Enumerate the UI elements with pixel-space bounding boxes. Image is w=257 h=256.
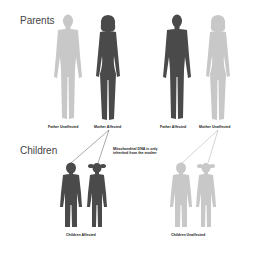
father-unaffected-figure	[54, 15, 82, 120]
mother-unaffected-figure	[206, 15, 230, 120]
label-children-affected: Children Affected	[66, 233, 96, 237]
label-father-affected: Father Affected	[160, 125, 186, 129]
girl-affected-figure	[87, 163, 107, 227]
father-affected-figure	[163, 15, 191, 120]
label-mother-affected: Mother Affected	[94, 125, 121, 129]
mother-affected-figure	[96, 15, 120, 120]
boy-affected-figure	[60, 163, 82, 228]
girl-unaffected-figure	[196, 163, 216, 227]
boy-unaffected-figure	[170, 163, 192, 228]
note-line-2: inherited from the mother	[113, 151, 158, 155]
mitochondrial-note: Mitochondrial DNA is only inherited from…	[113, 147, 158, 156]
label-father-unaffected: Father Unaffected	[48, 125, 79, 129]
label-mother-unaffected: Mother Unaffected	[199, 125, 231, 129]
label-children-unaffected: Children Unaffected	[171, 233, 205, 237]
